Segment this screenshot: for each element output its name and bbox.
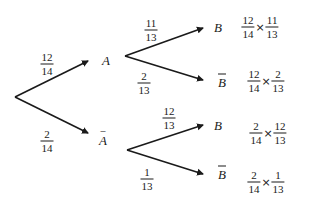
prob-not-B-given-A: 2 13 [138, 71, 151, 96]
product-A-not-B: 12 14 × 2 13 [247, 69, 284, 94]
node-B-from-A: B [214, 21, 222, 34]
node-A: A [102, 54, 110, 67]
times-sign: × [262, 127, 273, 140]
branch-A-to-B [125, 28, 203, 56]
node-not-A: – A [99, 129, 107, 147]
node-not-B-from-A: B [218, 76, 226, 89]
node-B-from-not-A: B [214, 119, 222, 132]
times-sign: × [260, 75, 271, 88]
product-not-A-B: 2 14 × 12 13 [249, 121, 286, 146]
branch-not-A-to-not-B [127, 150, 203, 174]
prob-not-B-given-not-A: 1 13 [141, 167, 154, 192]
prob-B-given-not-A: 12 13 [163, 106, 176, 131]
times-sign: × [260, 176, 271, 189]
product-A-B: 12 14 × 11 13 [241, 15, 278, 40]
node-not-B-from-not-A: B [218, 168, 226, 181]
product-not-A-not-B: 2 14 × 1 13 [247, 170, 284, 195]
times-sign: × [254, 21, 265, 34]
prob-A: 12 14 [41, 52, 54, 77]
prob-B-given-A: 11 13 [145, 18, 158, 43]
prob-not-A: 2 14 [41, 129, 54, 154]
